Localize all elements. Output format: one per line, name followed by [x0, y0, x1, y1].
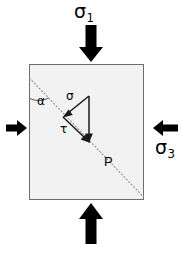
- stress-element-figure: σ1 σ3 α σ τ P: [0, 0, 189, 258]
- point-p-label: P: [104, 155, 113, 168]
- sigma3-subscript: 3: [168, 147, 176, 161]
- figure-canvas: [0, 0, 189, 258]
- sigma1-label: σ1: [74, 2, 94, 21]
- sigma1-bottom-arrow: [79, 203, 103, 244]
- sigma3-label: σ3: [155, 138, 175, 157]
- sigma3-symbol: σ: [155, 136, 167, 158]
- sigma1-symbol: σ: [74, 0, 86, 22]
- normal-stress-label: σ: [66, 90, 74, 102]
- sigma1-subscript: 1: [87, 11, 95, 25]
- sigma3-left-arrow: [6, 120, 27, 136]
- shear-stress-label: τ: [60, 123, 67, 135]
- alpha-label: α: [37, 95, 45, 107]
- sigma3-right-arrow: [153, 120, 178, 136]
- sigma1-top-arrow: [79, 25, 103, 62]
